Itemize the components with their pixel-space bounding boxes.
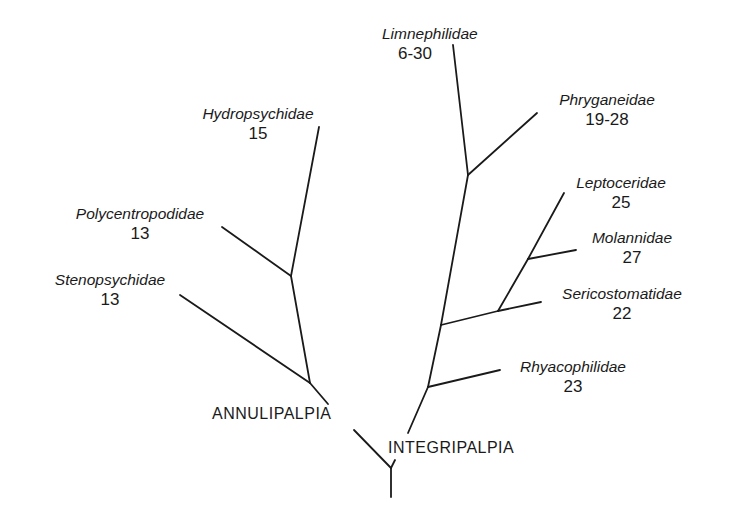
taxon-phryganeidae: Phryganeidae 19-28 [537,90,677,130]
taxon-leptoceridae: Leptoceridae 25 [556,173,686,213]
taxon-name: Polycentropodidae [45,204,235,224]
taxon-name: Rhyacophilidae [503,357,643,377]
annulipalpia-branch-upper [310,383,328,404]
taxon-value: 6-30 [372,44,512,64]
taxon-name: Phryganeidae [537,90,677,110]
taxon-sericostomatidae: Sericostomatidae 22 [542,284,702,324]
taxon-value: 13 [45,224,235,244]
taxon-name: Stenopsychidae [30,270,190,290]
integripalpia-main-upper [441,175,468,325]
taxon-stenopsychidae: Stenopsychidae 13 [30,270,190,310]
limnephilidae-branch [453,45,468,175]
integripalpia-main-lower [408,387,428,433]
taxon-value: 23 [503,377,643,397]
leptocerid-main [498,259,528,311]
group-label-integripalpia: INTEGRIPALPIA [388,439,514,457]
taxon-value: 13 [30,290,190,310]
group-label-annulipalpia: ANNULIPALPIA [212,405,332,423]
taxon-limnephilidae: Limnephilidae 6-30 [372,24,512,64]
integripalpia-stem-base [391,460,395,468]
leptocerid-clade-stem [441,311,498,325]
annulipalpia-stem [354,430,391,468]
stenopsychidae-branch [180,295,310,383]
taxon-polycentropodidae: Polycentropodidae 13 [45,204,235,244]
rhyacophilidae-branch [428,370,500,387]
taxon-value: 22 [542,304,702,324]
taxon-rhyacophilidae: Rhyacophilidae 23 [503,357,643,397]
taxon-name: Leptoceridae [556,173,686,193]
taxon-name: Hydropsychidae [178,104,338,124]
taxon-value: 15 [178,124,338,144]
taxon-value: 19-28 [537,110,677,130]
integripalpia-main-mid [428,325,441,387]
hydropsychidae-branch [291,127,319,276]
taxon-value: 25 [556,193,686,213]
taxon-name: Molannidae [572,228,692,248]
taxon-value: 27 [572,248,692,268]
taxon-name: Sericostomatidae [542,284,702,304]
taxon-molannidae: Molannidae 27 [572,228,692,268]
taxon-hydropsychidae: Hydropsychidae 15 [178,104,338,144]
molannidae-branch [528,250,576,259]
annulipalpia-main [291,276,310,383]
sericostomatidae-branch [498,302,541,311]
phryganeidae-branch [468,113,537,175]
taxon-name: Limnephilidae [372,24,512,44]
